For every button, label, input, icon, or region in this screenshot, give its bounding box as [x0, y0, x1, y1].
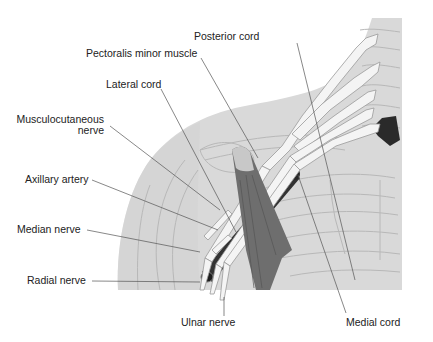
label-median-nerve: Median nerve	[17, 224, 81, 235]
label-axillary-artery: Axillary artery	[25, 174, 89, 185]
label-medial-cord: Medial cord	[346, 317, 400, 328]
anatomy-illustration	[0, 0, 433, 342]
label-musculocutaneous-nerve: Musculocutaneous nerve	[15, 114, 104, 136]
label-pectoralis-minor-muscle: Pectoralis minor muscle	[86, 48, 197, 59]
label-lateral-cord: Lateral cord	[106, 79, 161, 90]
label-musculocutaneous-line2: nerve	[15, 125, 104, 136]
label-radial-nerve: Radial nerve	[27, 275, 86, 286]
label-posterior-cord: Posterior cord	[194, 31, 259, 42]
label-ulnar-nerve: Ulnar nerve	[181, 317, 235, 328]
